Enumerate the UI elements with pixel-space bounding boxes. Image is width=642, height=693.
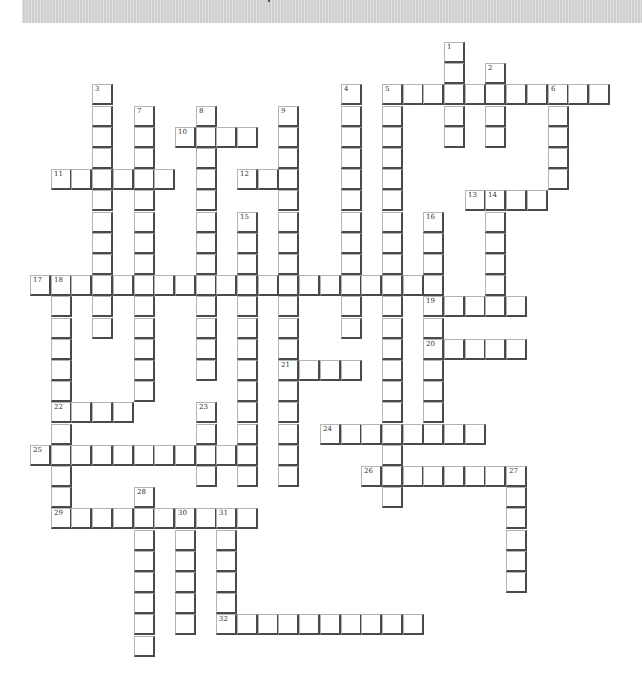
crossword-cell[interactable] — [196, 233, 217, 254]
crossword-cell[interactable] — [92, 212, 113, 233]
crossword-cell[interactable] — [382, 402, 403, 423]
crossword-cell[interactable] — [196, 254, 217, 275]
crossword-cell[interactable] — [237, 466, 258, 487]
crossword-cell[interactable] — [237, 296, 258, 317]
crossword-cell[interactable]: 30 — [175, 508, 196, 529]
crossword-cell[interactable] — [216, 572, 237, 593]
crossword-cell[interactable] — [423, 233, 444, 254]
crossword-cell[interactable] — [444, 296, 465, 317]
crossword-cell[interactable] — [196, 339, 217, 360]
crossword-cell[interactable] — [134, 572, 155, 593]
crossword-cell[interactable]: 4 — [341, 84, 362, 105]
crossword-cell[interactable] — [134, 593, 155, 614]
crossword-cell[interactable] — [444, 424, 465, 445]
crossword-cell[interactable] — [506, 530, 527, 551]
crossword-cell[interactable] — [92, 190, 113, 211]
crossword-cell[interactable] — [134, 296, 155, 317]
crossword-cell[interactable] — [278, 233, 299, 254]
crossword-cell[interactable] — [134, 381, 155, 402]
crossword-cell[interactable] — [154, 275, 175, 296]
crossword-cell[interactable] — [113, 445, 134, 466]
crossword-cell[interactable] — [237, 339, 258, 360]
crossword-cell[interactable] — [382, 381, 403, 402]
crossword-cell[interactable]: 6 — [548, 84, 569, 105]
crossword-cell[interactable]: 16 — [423, 212, 444, 233]
crossword-cell[interactable] — [320, 360, 341, 381]
crossword-cell[interactable]: 28 — [134, 487, 155, 508]
crossword-cell[interactable] — [278, 402, 299, 423]
crossword-cell[interactable] — [506, 551, 527, 572]
crossword-cell[interactable] — [382, 318, 403, 339]
crossword-cell[interactable] — [134, 127, 155, 148]
crossword-cell[interactable]: 24 — [320, 424, 341, 445]
crossword-cell[interactable] — [237, 127, 258, 148]
crossword-cell[interactable] — [113, 508, 134, 529]
crossword-cell[interactable] — [382, 148, 403, 169]
crossword-cell[interactable] — [92, 508, 113, 529]
crossword-cell[interactable] — [444, 106, 465, 127]
crossword-cell[interactable]: 10 — [175, 127, 196, 148]
crossword-cell[interactable] — [196, 508, 217, 529]
crossword-cell[interactable] — [134, 275, 155, 296]
crossword-cell[interactable] — [51, 381, 72, 402]
crossword-cell[interactable] — [196, 424, 217, 445]
crossword-cell[interactable] — [485, 466, 506, 487]
crossword-cell[interactable]: 27 — [506, 466, 527, 487]
crossword-cell[interactable] — [382, 275, 403, 296]
crossword-cell[interactable] — [382, 233, 403, 254]
crossword-cell[interactable] — [527, 190, 548, 211]
crossword-cell[interactable] — [216, 530, 237, 551]
crossword-cell[interactable] — [196, 360, 217, 381]
crossword-cell[interactable] — [278, 127, 299, 148]
crossword-cell[interactable] — [278, 254, 299, 275]
crossword-cell[interactable]: 31 — [216, 508, 237, 529]
crossword-cell[interactable] — [341, 614, 362, 635]
crossword-cell[interactable] — [196, 190, 217, 211]
crossword-cell[interactable] — [465, 466, 486, 487]
crossword-cell[interactable] — [92, 318, 113, 339]
crossword-cell[interactable] — [92, 445, 113, 466]
crossword-cell[interactable] — [506, 572, 527, 593]
crossword-cell[interactable]: 21 — [278, 360, 299, 381]
crossword-cell[interactable] — [258, 614, 279, 635]
crossword-cell[interactable] — [237, 402, 258, 423]
crossword-cell[interactable] — [465, 296, 486, 317]
crossword-cell[interactable] — [134, 169, 155, 190]
crossword-cell[interactable] — [216, 127, 237, 148]
crossword-cell[interactable]: 15 — [237, 212, 258, 233]
crossword-cell[interactable] — [134, 551, 155, 572]
crossword-cell[interactable] — [361, 275, 382, 296]
crossword-cell[interactable] — [237, 614, 258, 635]
crossword-cell[interactable] — [382, 169, 403, 190]
crossword-cell[interactable] — [382, 360, 403, 381]
crossword-cell[interactable] — [196, 445, 217, 466]
crossword-cell[interactable] — [548, 169, 569, 190]
crossword-cell[interactable] — [278, 381, 299, 402]
crossword-cell[interactable] — [134, 360, 155, 381]
crossword-cell[interactable] — [237, 318, 258, 339]
crossword-cell[interactable] — [320, 275, 341, 296]
crossword-cell[interactable] — [154, 445, 175, 466]
crossword-cell[interactable] — [134, 339, 155, 360]
crossword-cell[interactable]: 22 — [51, 402, 72, 423]
crossword-cell[interactable] — [341, 424, 362, 445]
crossword-cell[interactable] — [382, 127, 403, 148]
crossword-cell[interactable] — [548, 127, 569, 148]
crossword-cell[interactable] — [423, 466, 444, 487]
crossword-cell[interactable] — [423, 381, 444, 402]
crossword-cell[interactable] — [71, 402, 92, 423]
crossword-cell[interactable] — [361, 424, 382, 445]
crossword-cell[interactable]: 25 — [30, 445, 51, 466]
crossword-cell[interactable] — [92, 275, 113, 296]
crossword-cell[interactable]: 14 — [485, 190, 506, 211]
crossword-cell[interactable] — [134, 254, 155, 275]
crossword-cell[interactable] — [341, 190, 362, 211]
crossword-cell[interactable] — [51, 445, 72, 466]
crossword-cell[interactable] — [485, 127, 506, 148]
crossword-cell[interactable] — [485, 296, 506, 317]
crossword-cell[interactable] — [423, 275, 444, 296]
crossword-cell[interactable] — [154, 508, 175, 529]
crossword-cell[interactable] — [341, 106, 362, 127]
crossword-cell[interactable] — [258, 169, 279, 190]
crossword-cell[interactable] — [403, 466, 424, 487]
